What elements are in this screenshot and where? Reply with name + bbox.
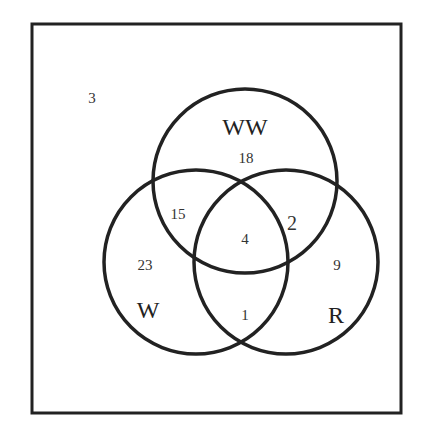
value-all: 4: [241, 231, 249, 247]
universal-set-box: [32, 24, 401, 413]
value-w-r: 1: [241, 307, 249, 323]
label-w: W: [137, 297, 160, 323]
label-r: R: [328, 302, 344, 328]
circle-w: [104, 170, 288, 354]
value-w-only: 23: [138, 257, 153, 273]
label-ww: WW: [222, 114, 268, 140]
venn-diagram: WW W R 3 18 23 9 15 2 4 1: [0, 0, 431, 435]
value-ww-r: 2: [287, 212, 297, 234]
value-ww-only: 18: [239, 150, 254, 166]
value-outside: 3: [88, 90, 96, 106]
value-r-only: 9: [333, 257, 341, 273]
value-ww-w: 15: [171, 206, 186, 222]
